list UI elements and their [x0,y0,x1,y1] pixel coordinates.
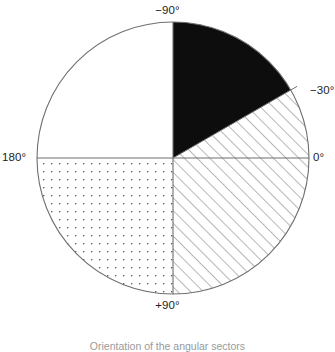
axis-label-minus-30: −30° [310,85,335,97]
axis-label-180: 180° [2,152,26,164]
dotted-sector [37,158,173,294]
axis-label-plus-90: +90° [0,300,335,312]
figure-caption: Orientation of the angular sectors [0,340,335,352]
axis-label-zero: 0° [313,152,324,164]
blank-sector [37,22,173,158]
axis-label-minus-90: −90° [0,5,335,17]
angle-sector-diagram: −90° −30° 0° 180° +90° Orientation of th… [0,0,335,352]
